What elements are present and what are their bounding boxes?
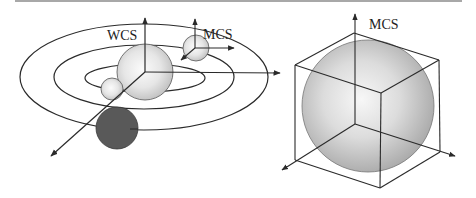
mcs-label-left: MCS: [203, 27, 233, 42]
mcs-label-right: MCS: [369, 17, 399, 32]
small-orbiting-sphere: [101, 78, 123, 100]
dark-sphere: [96, 107, 138, 149]
left-panel-solar-scene: WCS MCS: [20, 18, 280, 156]
coordinate-systems-diagram: WCS MCS MCS: [0, 0, 476, 198]
right-panel-bounding-cube: MCS: [282, 14, 455, 188]
wcs-label: WCS: [107, 28, 137, 43]
large-sphere: [302, 40, 434, 172]
